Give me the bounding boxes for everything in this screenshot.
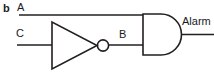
not-gate-bubble: [97, 40, 108, 51]
output-label-alarm: Alarm: [182, 15, 211, 27]
not-gate-triangle: [52, 22, 97, 69]
and-gate-body: [143, 14, 181, 55]
figure-panel-b: b A C B Alarm: [0, 0, 214, 73]
node-label-b: B: [119, 28, 126, 40]
logic-circuit-drawing: [0, 0, 214, 73]
input-label-a: A: [17, 1, 24, 13]
input-label-c: C: [16, 27, 24, 39]
